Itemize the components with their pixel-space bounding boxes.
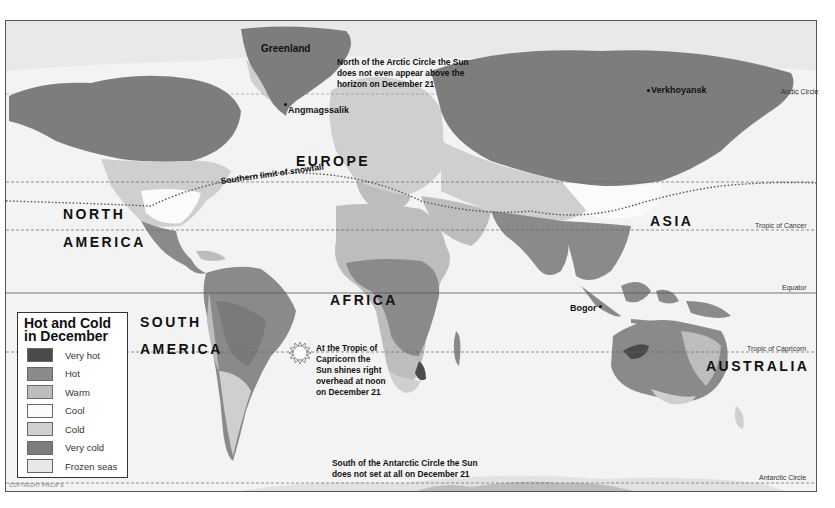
label-america-south: AMERICA (140, 341, 223, 357)
label-arctic-circle: Arctic Circle (781, 88, 818, 95)
legend-item-very-hot: Very hot (24, 346, 121, 365)
label-america-north: AMERICA (63, 234, 146, 250)
swatch-cool (27, 404, 53, 418)
note-antarctic: South of the Antarctic Circle the Sun do… (332, 457, 478, 479)
label-angmagssalik: Angmagssalik (288, 105, 349, 115)
label-north: NORTH (63, 206, 125, 222)
legend: Hot and Cold in December Very hot Hot Wa… (17, 312, 128, 478)
legend-item-frozen-seas: Frozen seas (24, 457, 121, 476)
legend-item-very-cold: Very cold (24, 439, 121, 458)
legend-title-line2: in December (24, 330, 121, 343)
swatch-very-hot (27, 348, 53, 362)
label-tropic-cancer: Tropic of Cancer (755, 222, 806, 229)
label-bogor: Bogor (570, 303, 597, 313)
copyright: COPYRIGHT PHILIP'S (9, 482, 64, 488)
legend-item-cold: Cold (24, 420, 121, 439)
legend-item-hot: Hot (24, 365, 121, 384)
label-australia: AUSTRALIA (706, 358, 809, 374)
bogor-dot (599, 305, 602, 308)
label-verkhoyansk: Verkhoyansk (651, 85, 707, 95)
swatch-warm (27, 385, 53, 399)
label-equator: Equator (782, 284, 807, 291)
swatch-very-cold (27, 441, 53, 455)
legend-item-cool: Cool (24, 402, 121, 421)
note-arctic: North of the Arctic Circle the Sun does … (337, 56, 469, 89)
swatch-cold (27, 422, 53, 436)
label-tropic-capricorn: Tropic of Capricorn (747, 345, 806, 352)
swatch-hot (27, 367, 53, 381)
swatch-frozen-seas (27, 459, 53, 473)
verkhoyansk-dot (647, 89, 650, 92)
label-africa: AFRICA (330, 292, 398, 308)
angmagssalik-dot (284, 103, 287, 106)
note-capricorn: At the Tropic of Capricorn the Sun shine… (316, 342, 386, 397)
label-greenland: Greenland (261, 43, 310, 54)
label-asia: ASIA (650, 213, 693, 229)
label-antarctic-circle: Antarctic Circle (759, 474, 806, 481)
legend-item-warm: Warm (24, 383, 121, 402)
label-south: SOUTH (140, 314, 202, 330)
